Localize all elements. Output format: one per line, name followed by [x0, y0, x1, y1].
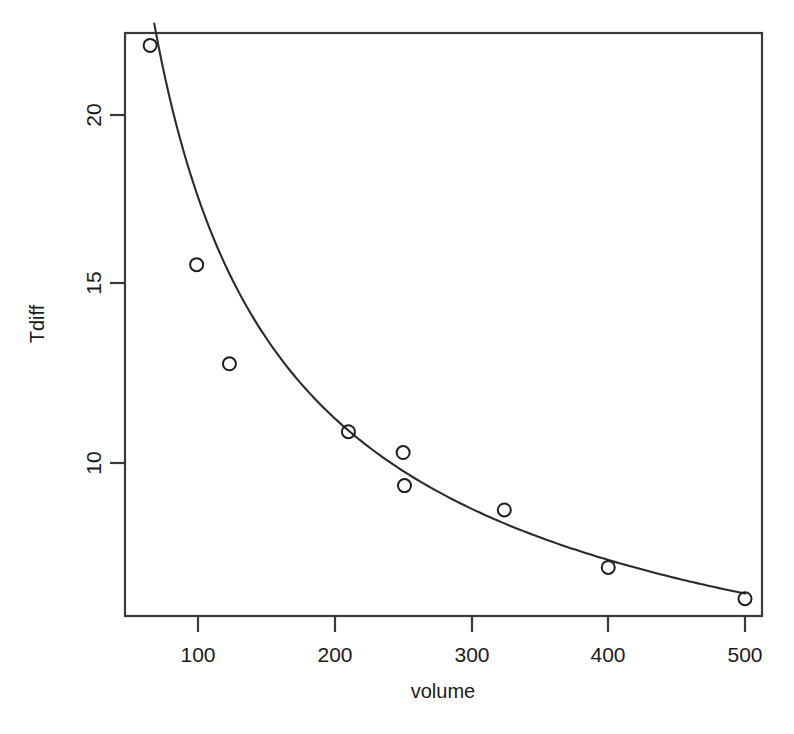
x-axis-tick-labels: 100 200 300 400 500 — [180, 643, 762, 666]
y-axis-ticks — [110, 115, 125, 463]
data-point — [602, 561, 615, 574]
x-tick-label-200: 200 — [317, 643, 352, 666]
y-tick-label-20: 20 — [82, 103, 105, 126]
plot-frame-box — [125, 33, 762, 616]
y-tick-label-10: 10 — [82, 451, 105, 474]
x-tick-label-100: 100 — [180, 643, 215, 666]
data-point — [223, 357, 236, 370]
y-tick-label-15: 15 — [82, 271, 105, 294]
x-tick-label-300: 300 — [454, 643, 489, 666]
data-point-series — [144, 39, 752, 605]
data-point — [398, 479, 411, 492]
data-point — [144, 39, 157, 52]
y-axis-tick-labels: 20 15 10 — [82, 103, 105, 474]
x-tick-label-500: 500 — [727, 643, 762, 666]
x-axis-title: volume — [411, 680, 475, 702]
data-point — [397, 446, 410, 459]
x-tick-label-400: 400 — [590, 643, 625, 666]
data-point — [190, 258, 203, 271]
y-axis-title: Tdiff — [26, 304, 48, 343]
chart-container: 20 15 10 100 200 300 400 500 volume Tdif… — [0, 0, 794, 734]
data-point — [498, 503, 511, 516]
x-axis-ticks — [198, 616, 745, 632]
scatter-plot-canvas: 20 15 10 100 200 300 400 500 volume Tdif… — [0, 0, 794, 734]
fitted-curve — [154, 24, 745, 594]
